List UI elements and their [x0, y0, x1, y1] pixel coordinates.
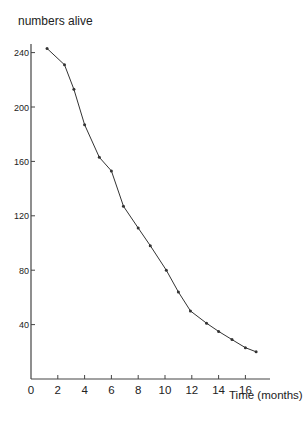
data-point — [165, 269, 168, 272]
x-tick-label: 12 — [185, 384, 198, 396]
data-point — [72, 88, 75, 91]
y-tick-label: 40 — [19, 320, 29, 330]
data-point — [63, 63, 66, 66]
data-point — [255, 350, 258, 353]
data-point — [149, 244, 152, 247]
data-point — [98, 156, 101, 159]
data-point — [231, 338, 234, 341]
data-point — [110, 169, 113, 172]
data-point — [83, 123, 86, 126]
y-axis-title: numbers alive — [18, 14, 93, 28]
data-point — [244, 346, 247, 349]
y-tick-label: 160 — [14, 157, 29, 167]
x-tick-label: 10 — [159, 384, 172, 396]
y-tick-label: 200 — [14, 103, 29, 113]
x-tick-label: 6 — [108, 384, 114, 396]
x-tick-label: 8 — [135, 384, 141, 396]
data-point — [205, 322, 208, 325]
y-tick-label: 240 — [14, 48, 29, 58]
x-tick-label: 14 — [212, 384, 225, 396]
data-point — [122, 205, 125, 208]
x-axis-title: Time (months) — [229, 389, 303, 401]
data-point — [46, 47, 49, 50]
line-chart: 02468101214164080120160200240 — [0, 0, 304, 424]
data-point — [137, 227, 140, 230]
x-tick-label: 0 — [28, 384, 34, 396]
y-tick-label: 120 — [14, 211, 29, 221]
data-line — [47, 49, 256, 352]
x-tick-label: 4 — [81, 384, 88, 396]
x-tick-label: 2 — [55, 384, 61, 396]
data-point — [177, 290, 180, 293]
data-point — [189, 310, 192, 313]
data-point — [217, 330, 220, 333]
y-tick-label: 80 — [19, 266, 29, 276]
